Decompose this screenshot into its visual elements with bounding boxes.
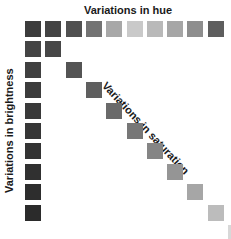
saturation-label: Variations in saturation [100, 80, 191, 176]
brightness-swatch [25, 82, 41, 98]
saturation-swatch [187, 184, 203, 200]
saturation-swatch [86, 82, 102, 98]
saturation-swatch [147, 143, 163, 159]
brightness-swatch [25, 164, 41, 180]
hue-swatch [127, 21, 143, 37]
hue-swatch [45, 21, 61, 37]
hue-swatch [208, 21, 224, 37]
hue-swatch [147, 21, 163, 37]
saturation-swatch [127, 123, 143, 139]
hue-swatch [106, 21, 122, 37]
hue-swatch [25, 21, 41, 37]
saturation-swatch [167, 164, 183, 180]
brightness-swatch [25, 62, 41, 78]
brightness-label: Variations in brightness [4, 68, 15, 193]
brightness-swatch [25, 205, 41, 221]
saturation-swatch [45, 41, 61, 57]
brightness-swatch [25, 143, 41, 159]
saturation-swatch [208, 205, 224, 221]
saturation-swatch [66, 62, 82, 78]
hue-swatch [86, 21, 102, 37]
brightness-swatch [25, 41, 41, 57]
brightness-swatch [25, 123, 41, 139]
saturation-swatch [106, 103, 122, 119]
saturation-swatch [228, 225, 231, 239]
brightness-swatch [25, 184, 41, 200]
brightness-swatch [25, 103, 41, 119]
hue-swatch [167, 21, 183, 37]
hue-label: Variations in hue [84, 5, 172, 16]
hue-swatch [66, 21, 82, 37]
hue-swatch [187, 21, 203, 37]
